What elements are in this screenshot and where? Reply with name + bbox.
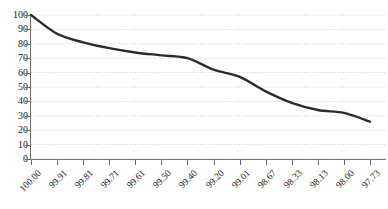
y-tick-mark (25, 101, 30, 102)
y-tick-mark (25, 44, 30, 45)
x-tick-mark (318, 160, 319, 165)
x-tick-label: 99.40 (177, 168, 199, 190)
x-tick-label: 100.00 (18, 168, 44, 194)
y-tick-mark (25, 15, 30, 16)
x-tick-label: 98.13 (308, 168, 330, 190)
x-tick-label: 99.01 (230, 168, 252, 190)
x-tick-mark (187, 160, 188, 165)
x-tick-mark (109, 160, 110, 165)
x-tick-label: 99.81 (73, 168, 95, 190)
x-tick-mark (214, 160, 215, 165)
y-tick-mark (25, 159, 30, 160)
y-tick-mark (25, 73, 30, 74)
y-tick-mark (25, 130, 30, 131)
x-tick-label: 99.50 (151, 168, 173, 190)
x-tick-mark (292, 160, 293, 165)
x-tick-mark (161, 160, 162, 165)
y-tick-mark (25, 29, 30, 30)
y-tick-mark (25, 116, 30, 117)
x-axis-tick-labels: 100.0099.9199.8199.7199.6199.5099.4099.2… (0, 0, 388, 209)
x-tick-label: 97.73 (360, 168, 382, 190)
x-tick-label: 98.67 (256, 168, 278, 190)
x-tick-label: 99.71 (99, 168, 121, 190)
x-tick-mark (83, 160, 84, 165)
x-tick-label: 98.33 (282, 168, 304, 190)
x-tick-mark (135, 160, 136, 165)
x-tick-mark (370, 160, 371, 165)
x-tick-mark (31, 160, 32, 165)
x-tick-label: 99.20 (203, 168, 225, 190)
x-tick-label: 98.00 (334, 168, 356, 190)
y-tick-mark (25, 58, 30, 59)
y-tick-mark (25, 145, 30, 146)
x-tick-mark (266, 160, 267, 165)
x-tick-mark (344, 160, 345, 165)
x-tick-mark (57, 160, 58, 165)
chart-container: 0102030405060708090100 100.0099.9199.819… (0, 0, 388, 209)
y-tick-mark (25, 87, 30, 88)
x-tick-label: 99.91 (47, 168, 69, 190)
x-tick-label: 99.61 (125, 168, 147, 190)
x-tick-mark (240, 160, 241, 165)
